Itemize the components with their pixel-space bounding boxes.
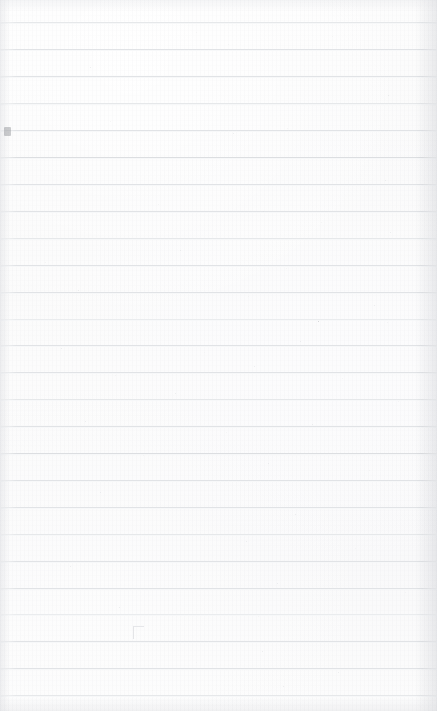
- paper-speck: [78, 290, 79, 291]
- rule-line: [0, 130, 437, 131]
- rule-line: [0, 345, 437, 346]
- paper-speck: [277, 583, 278, 584]
- paper-speck: [295, 514, 296, 515]
- paper-speck: [369, 470, 370, 471]
- rule-line: [0, 372, 437, 373]
- paper-speck: [338, 672, 339, 673]
- paper-speck: [262, 651, 263, 652]
- paper-speck: [387, 322, 388, 323]
- paper-speck: [374, 305, 375, 306]
- paper-speck: [119, 607, 120, 608]
- paper-speck: [321, 222, 322, 223]
- paper-speck: [175, 393, 176, 394]
- rule-line: [0, 695, 437, 696]
- paper-speck: [226, 432, 227, 433]
- paper-speck: [180, 250, 181, 251]
- paper-speck: [286, 268, 287, 269]
- rule-line: [0, 588, 437, 589]
- paper-speck: [388, 95, 389, 96]
- rule-line: [0, 641, 437, 642]
- paper-speck: [228, 44, 229, 45]
- paper-speck: [390, 232, 391, 233]
- paper-speck: [248, 296, 249, 297]
- paper-speck: [141, 534, 142, 535]
- paper-speck: [204, 352, 205, 353]
- rule-line: [0, 453, 437, 454]
- paper-speck: [318, 321, 319, 322]
- paper-speck: [85, 421, 86, 422]
- paper-speck: [115, 375, 116, 376]
- paper-speck: [283, 686, 284, 687]
- left-edge-blot-mark: [4, 127, 11, 136]
- rule-line: [0, 211, 437, 212]
- paper-speck: [355, 548, 356, 549]
- paper-speck: [100, 492, 101, 493]
- paper-speck: [233, 133, 234, 134]
- rule-line: [0, 480, 437, 481]
- paper-speck: [127, 319, 128, 320]
- paper-speck: [398, 401, 399, 402]
- paper-speck: [405, 592, 406, 593]
- paper-speck: [190, 575, 191, 576]
- rule-line: [0, 238, 437, 239]
- paper-speck: [143, 455, 144, 456]
- rule-line: [0, 668, 437, 669]
- paper-speck: [246, 541, 247, 542]
- rule-line: [0, 22, 437, 23]
- paper-speck: [213, 500, 214, 501]
- paper-speck: [45, 262, 46, 263]
- paper-speck: [263, 211, 264, 212]
- paper-speck: [90, 67, 91, 68]
- scanned-paper-page: [0, 0, 437, 711]
- paper-speck: [196, 662, 197, 663]
- rule-line: [0, 534, 437, 535]
- paper-speck: [110, 121, 111, 122]
- paper-speck: [258, 616, 259, 617]
- paper-speck: [61, 348, 62, 349]
- paper-speck: [152, 690, 153, 691]
- paper-speck: [254, 366, 255, 367]
- paper-speck: [312, 424, 313, 425]
- rule-line: [0, 426, 437, 427]
- rule-line: [0, 399, 437, 400]
- paper-speck: [385, 180, 386, 181]
- ruled-lines-group: [0, 0, 437, 711]
- paper-speck: [268, 463, 269, 464]
- paper-speck: [332, 36, 333, 37]
- corner-smudge-mark: [133, 626, 144, 639]
- rule-line: [0, 157, 437, 158]
- rule-line: [0, 76, 437, 77]
- paper-speck: [342, 378, 343, 379]
- paper-speck: [158, 204, 159, 205]
- rule-line: [0, 184, 437, 185]
- paper-speck: [287, 128, 288, 129]
- rule-line: [0, 614, 437, 615]
- rule-line: [0, 103, 437, 104]
- paper-speck: [300, 341, 301, 342]
- rule-line: [0, 319, 437, 320]
- rule-line: [0, 265, 437, 266]
- rule-line: [0, 561, 437, 562]
- rule-line: [0, 507, 437, 508]
- rule-line: [0, 292, 437, 293]
- paper-speck: [70, 566, 71, 567]
- paper-speck: [196, 32, 197, 33]
- rule-line: [0, 49, 437, 50]
